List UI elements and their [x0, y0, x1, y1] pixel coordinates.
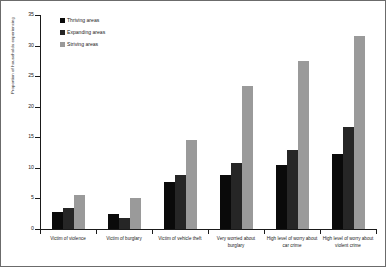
- bar: [242, 86, 253, 229]
- bar: [63, 208, 74, 229]
- x-axis-tick: [320, 230, 321, 234]
- bar-group: [276, 15, 309, 229]
- bar: [164, 182, 175, 229]
- x-axis-category-label: Victim of burglary: [96, 236, 152, 249]
- legend-item: Expanding areas: [60, 26, 105, 38]
- legend-label: Expanding areas: [67, 29, 105, 35]
- y-axis-tick-label: 10: [18, 165, 34, 170]
- bar-group: [220, 15, 253, 229]
- y-axis-title: Proportion of households experiencing: [10, 0, 15, 141]
- bar: [186, 140, 197, 229]
- y-axis-tick-label: 30: [18, 43, 34, 48]
- y-axis-tick-label: 5: [18, 195, 34, 200]
- bar-group: [332, 15, 365, 229]
- x-axis-tick: [208, 230, 209, 234]
- y-axis-tick-label: 15: [18, 134, 34, 139]
- x-axis-tick: [40, 230, 41, 234]
- y-axis-tick-label: 20: [18, 104, 34, 109]
- x-axis-tick: [376, 230, 377, 234]
- bar-group: [164, 15, 197, 229]
- chart-figure: Proportion of households experiencing 05…: [0, 0, 386, 267]
- x-axis-category-label: High level of worry about car crime: [264, 236, 320, 249]
- legend-label: Thriving areas: [67, 17, 99, 23]
- bar: [52, 212, 63, 229]
- x-axis-category-label: High level of worry about violent crime: [320, 236, 376, 249]
- legend-label: Striving areas: [67, 41, 98, 47]
- x-axis-category-label: Very worried about burglary: [208, 236, 264, 249]
- x-axis-tick: [96, 230, 97, 234]
- legend-swatch-icon: [60, 42, 65, 47]
- bar-group: [108, 15, 141, 229]
- x-axis-category-label: Victim of vehicle theft: [152, 236, 208, 249]
- bar: [220, 175, 231, 229]
- y-axis-tick-label: 25: [18, 73, 34, 78]
- legend-item: Thriving areas: [60, 14, 105, 26]
- legend-swatch-icon: [60, 30, 65, 35]
- bar: [175, 175, 186, 229]
- legend-item: Striving areas: [60, 38, 105, 50]
- x-axis-category-label: Victim of violence: [40, 236, 96, 249]
- bar: [108, 214, 119, 229]
- bar: [343, 127, 354, 229]
- y-axis-tick-label: 35: [18, 12, 34, 17]
- y-axis-tick-label: 0: [18, 226, 34, 231]
- chart-legend: Thriving areasExpanding areasStriving ar…: [60, 14, 105, 50]
- bar: [130, 198, 141, 229]
- x-axis-category-labels: Victim of violenceVictim of burglaryVict…: [40, 236, 376, 249]
- bar: [231, 163, 242, 229]
- bar: [287, 150, 298, 229]
- x-axis-tick: [152, 230, 153, 234]
- bar: [298, 61, 309, 229]
- bar: [119, 218, 130, 229]
- legend-swatch-icon: [60, 18, 65, 23]
- bar: [74, 195, 85, 229]
- x-axis-tick: [264, 230, 265, 234]
- bar: [332, 154, 343, 229]
- bar: [276, 165, 287, 229]
- bar: [354, 36, 365, 229]
